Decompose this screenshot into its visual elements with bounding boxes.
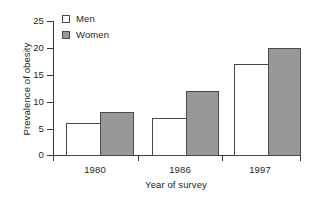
y-tick-label-5: 5	[39, 124, 44, 134]
legend-label-women: Women	[76, 30, 109, 40]
legend-item-men: Men	[62, 12, 109, 26]
y-tick-label-15: 15	[33, 70, 44, 80]
x-tick-start	[53, 155, 54, 161]
y-tick-15	[47, 75, 53, 76]
x-tick-2	[222, 155, 223, 161]
legend: Men Women	[62, 12, 109, 44]
bar-women-1986	[186, 91, 219, 156]
y-tick-5	[47, 129, 53, 130]
x-tick-label-1980: 1980	[84, 165, 106, 175]
bar-men-1980	[66, 123, 101, 156]
y-axis-title: Prevalence of obesity	[22, 21, 32, 157]
legend-item-women: Women	[62, 28, 109, 42]
y-tick-label-0: 0	[39, 150, 44, 160]
bar-men-1986	[152, 118, 187, 156]
bar-women-1997	[268, 48, 301, 156]
legend-swatch-men-icon	[62, 15, 70, 23]
x-tick-1	[138, 155, 139, 161]
legend-label-men: Men	[76, 14, 95, 24]
bar-chart-figure: 25 20 15 10 5 0 1980 1986 1997 Prevalenc…	[0, 0, 320, 200]
y-axis-line	[53, 21, 54, 156]
x-axis-title: Year of survey	[0, 180, 320, 190]
y-tick-20	[47, 48, 53, 49]
bar-women-1980	[100, 112, 134, 156]
x-tick-label-1986: 1986	[169, 165, 191, 175]
legend-swatch-women-icon	[62, 31, 70, 39]
y-tick-label-20: 20	[33, 43, 44, 53]
y-tick-25	[47, 21, 53, 22]
y-tick-10	[47, 102, 53, 103]
y-tick-label-10: 10	[33, 97, 44, 107]
x-tick-label-1997: 1997	[249, 165, 271, 175]
y-tick-label-25: 25	[33, 16, 44, 26]
bar-men-1997	[234, 64, 269, 156]
